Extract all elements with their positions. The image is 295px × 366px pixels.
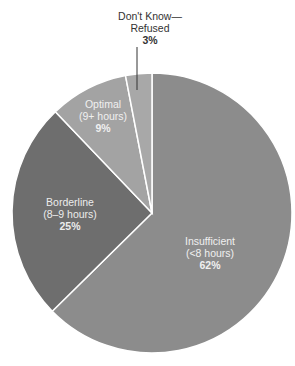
label-text: Insufficient: [165, 235, 255, 247]
label-percent: 9%: [58, 122, 148, 134]
label-text: Optimal: [58, 98, 148, 110]
label-dont-know: Don't Know— Refused 3%: [105, 10, 195, 46]
label-percent: 3%: [105, 34, 195, 46]
label-text: (9+ hours): [58, 110, 148, 122]
label-text: (8–9 hours): [25, 208, 115, 220]
label-text: Refused: [105, 22, 195, 34]
label-text: Don't Know—: [105, 10, 195, 22]
label-insufficient: Insufficient (<8 hours) 62%: [165, 235, 255, 271]
label-borderline: Borderline (8–9 hours) 25%: [25, 196, 115, 232]
label-text: Borderline: [25, 196, 115, 208]
label-text: (<8 hours): [165, 247, 255, 259]
pie-chart: [0, 0, 295, 366]
label-percent: 62%: [165, 259, 255, 271]
label-optimal: Optimal (9+ hours) 9%: [58, 98, 148, 134]
label-percent: 25%: [25, 220, 115, 232]
